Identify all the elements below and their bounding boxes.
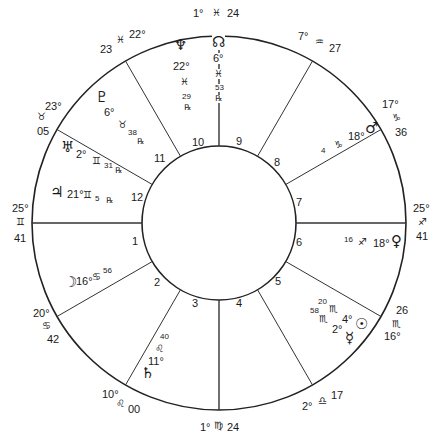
pluto-degree: 6° (104, 107, 115, 118)
sun-icon: ☉ (355, 317, 368, 332)
pisces-sign-icon: ♓ (214, 69, 223, 79)
scorpio-sign-icon: ♏ (392, 319, 401, 329)
retrograde-icon: ℞ (215, 95, 222, 103)
scorpio-sign-icon: ♏ (319, 314, 328, 324)
mercury-minutes: 58 (310, 307, 319, 315)
inner-circle (142, 146, 296, 300)
chart-wheel (0, 0, 440, 442)
pisces-sign-icon: ♓ (212, 8, 221, 18)
mercury-degree: 2° (332, 324, 343, 335)
north-node-degree: 6° (213, 53, 224, 64)
pluto-icon: ♇ (95, 90, 108, 105)
taurus-sign-icon: ♉ (118, 120, 127, 130)
north-node-minutes: 53 (215, 84, 224, 92)
neptune-minutes: 29 (182, 93, 191, 101)
mars-icon: ♂ (365, 121, 378, 136)
c6-cusp-degree: 16° (384, 331, 401, 342)
c3-cusp-minutes: 00 (128, 404, 140, 415)
retrograde-icon: ℞ (106, 197, 113, 205)
cusp-line-8 (286, 130, 381, 185)
gemini-sign-icon: ♊ (16, 217, 25, 227)
moon-degree: 16° (76, 276, 93, 287)
sagittarius-sign-icon: ♐ (358, 237, 367, 247)
jupiter-minutes: 5 (95, 195, 99, 203)
house-number-1: 1 (132, 236, 138, 247)
retrograde-icon: ℞ (115, 167, 122, 175)
saturn-icon: ♄ (141, 366, 154, 381)
venus-icon: ♀ (391, 234, 402, 249)
libra-sign-icon: ♎ (318, 396, 327, 406)
house-number-7: 7 (296, 197, 302, 208)
venus-degree: 18° (373, 238, 390, 249)
house-number-9: 9 (236, 136, 242, 147)
gemini-sign-icon: ♊ (92, 156, 101, 166)
c11-cusp-minutes: 23 (100, 44, 112, 55)
house-number-4: 4 (236, 298, 242, 309)
mars-minutes: 4 (321, 147, 325, 155)
uranus-degree: 2° (76, 149, 87, 160)
house-number-6: 6 (296, 237, 302, 248)
leo-sign-icon: ♌ (155, 344, 164, 354)
c6-cusp-minutes-top: 26 (396, 305, 408, 316)
c12-cusp-minutes: 05 (37, 126, 49, 137)
neptune-degree: 22° (173, 61, 190, 72)
uranus-minutes: 31 (104, 162, 113, 170)
c12-cusp-degree: 23° (45, 101, 62, 112)
jupiter-degree: 21° (67, 189, 84, 200)
uranus-icon: ♅ (61, 140, 74, 155)
capricorn-sign-icon: ♑ (392, 113, 401, 123)
scorpio-sign-icon: ♏ (329, 304, 338, 314)
virgo-sign-icon: ♍ (214, 421, 223, 431)
pisces-sign-icon: ♓ (180, 77, 189, 87)
gemini-sign-icon: ♊ (83, 190, 92, 200)
house-number-12: 12 (131, 192, 143, 203)
house-number-8: 8 (274, 157, 280, 168)
capricorn-sign-icon: ♑ (334, 140, 343, 150)
ic-cusp-minutes: 24 (227, 422, 239, 433)
ic-cusp-degree: 1° (200, 422, 211, 433)
c8-cusp-minutes: 36 (395, 127, 407, 138)
house-number-10: 10 (192, 137, 204, 148)
north-node-icon: ☊ (212, 35, 225, 50)
sun-minutes: 20 (318, 298, 327, 306)
aquarius-sign-icon: ♒ (315, 37, 324, 47)
neptune-icon: ♆ (174, 38, 187, 53)
c2-cusp-minutes: 42 (47, 334, 59, 345)
mars-degree: 18° (348, 131, 365, 142)
dsc-cusp-minutes: 41 (416, 231, 428, 242)
house-number-5: 5 (275, 276, 281, 287)
leo-sign-icon: ♌ (116, 399, 125, 409)
taurus-sign-icon: ♉ (37, 112, 46, 122)
moon-minutes: 56 (103, 267, 112, 275)
dsc-cusp-degree: 25° (413, 203, 430, 214)
cusp-line-5 (258, 290, 313, 385)
jupiter-icon: ♃ (50, 185, 63, 200)
pluto-minutes: 38 (128, 129, 137, 137)
cancer-sign-icon: ♋ (42, 321, 51, 331)
retrograde-icon: ℞ (184, 104, 191, 112)
c5-cusp-degree: 2° (302, 401, 313, 412)
house-number-2: 2 (154, 277, 160, 288)
venus-minutes: 16 (344, 236, 353, 244)
retrograde-icon: ℞ (137, 138, 144, 146)
c11-cusp-degree: 22° (129, 29, 146, 40)
sun-degree: 4° (342, 314, 353, 325)
cancer-sign-icon: ♋ (92, 272, 101, 282)
c2-cusp-degree: 20° (33, 308, 50, 319)
mc-cusp-degree: 1° (193, 8, 204, 19)
mercury-icon: ☿ (345, 331, 354, 346)
pisces-sign-icon: ♓ (116, 35, 125, 45)
asc-cusp-degree: 25° (12, 203, 29, 214)
saturn-minutes: 40 (160, 333, 169, 341)
c9-cusp-minutes: 27 (329, 43, 341, 54)
cusp-line-11 (126, 61, 181, 156)
asc-cusp-minutes: 41 (14, 233, 26, 244)
house-number-11: 11 (154, 153, 165, 164)
c8-cusp-degree: 17° (382, 99, 399, 110)
sagittarius-sign-icon: ♐ (418, 217, 427, 227)
c9-cusp-degree: 7° (298, 31, 309, 42)
mc-cusp-minutes: 24 (227, 8, 239, 19)
cusp-line-9 (258, 61, 313, 156)
house-number-3: 3 (192, 298, 198, 309)
c5-cusp-minutes: 17 (331, 390, 343, 401)
